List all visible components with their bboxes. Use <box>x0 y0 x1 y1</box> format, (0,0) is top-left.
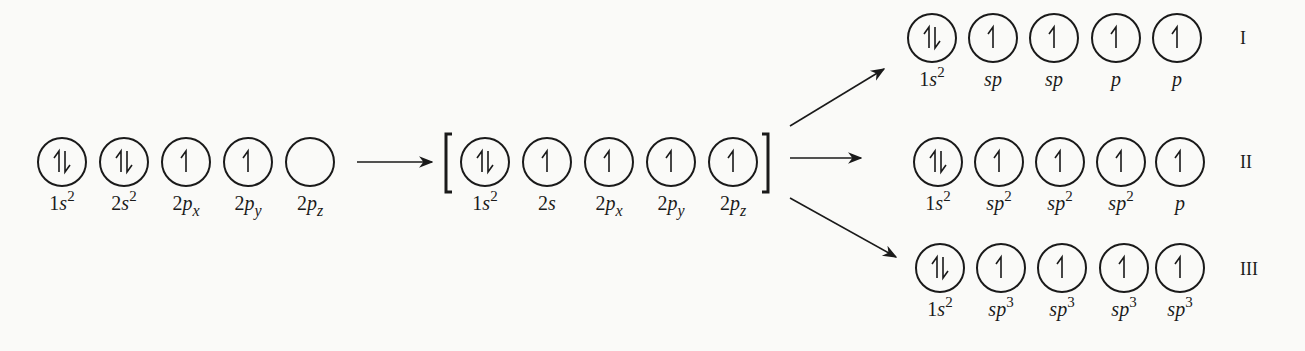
spin-down-icon <box>127 151 132 172</box>
orbital-label: 2px <box>172 192 199 219</box>
orbital-box <box>1092 14 1140 62</box>
orbital-label: sp2 <box>1047 188 1072 215</box>
orbital-box <box>1156 244 1204 292</box>
spin-up-icon <box>1055 151 1060 172</box>
orbital-box <box>916 244 964 292</box>
numeral-ii: II <box>1240 152 1252 172</box>
orbital-label: sp3 <box>1111 294 1136 321</box>
orbital-box <box>585 138 633 186</box>
arrow-to-hybrid-i <box>790 69 884 126</box>
spin-up-icon <box>1116 151 1121 172</box>
orbital-box <box>908 14 956 62</box>
orbital-label: p <box>1170 68 1182 91</box>
spin-up-icon <box>604 151 609 172</box>
arrow-to-hybrid-iii <box>790 198 896 257</box>
orbital-label: sp2 <box>1108 188 1133 215</box>
spin-down-icon <box>935 27 940 48</box>
orbital-box <box>1100 244 1148 292</box>
orbital-box <box>1030 14 1078 62</box>
orbital-box <box>1156 138 1204 186</box>
orbital-label: 1s2 <box>472 188 497 214</box>
spin-up-icon <box>116 151 121 172</box>
spin-up-icon <box>1057 257 1062 278</box>
orbital-label: 2py <box>657 192 685 220</box>
orbital-label: sp3 <box>1049 294 1074 321</box>
spin-up-icon <box>930 151 935 172</box>
orbital-label: sp <box>1045 68 1063 91</box>
spin-up-icon <box>1049 27 1054 48</box>
orbital-box <box>224 138 272 186</box>
spin-down-icon <box>941 151 946 172</box>
orbital-box <box>977 244 1025 292</box>
orbital-label: 1s2 <box>925 188 950 214</box>
spin-up-icon <box>1119 257 1124 278</box>
orbital-box <box>1038 244 1086 292</box>
numeral-iii: III <box>1240 259 1258 279</box>
orbital-label: 2s <box>538 192 556 214</box>
orbital-box <box>38 138 86 186</box>
spin-up-icon <box>666 151 671 172</box>
spin-up-icon <box>1175 257 1180 278</box>
orbital-box <box>914 138 962 186</box>
right-bracket <box>762 134 768 192</box>
spin-up-icon <box>728 151 733 172</box>
orbital-label: sp3 <box>988 294 1013 321</box>
orbital-label: 2pz <box>297 192 324 219</box>
hybrid-state-iii: 1s2sp3sp3sp3sp3 <box>916 244 1204 321</box>
orbital-box <box>1153 14 1201 62</box>
orbital-label: sp2 <box>986 188 1011 215</box>
orbital-label: 2px <box>595 192 622 219</box>
spin-down-icon <box>65 151 70 172</box>
hybrid-state-i: 1s2spsppp <box>908 14 1201 91</box>
spin-up-icon <box>1175 151 1180 172</box>
spin-up-icon <box>542 151 547 172</box>
excited-state-group: 1s22s2px2py2pz <box>461 138 757 220</box>
spin-up-icon <box>1111 27 1116 48</box>
orbital-box <box>100 138 148 186</box>
ground-state-group: 1s22s22px2py2pz <box>38 138 334 220</box>
spin-up-icon <box>477 151 482 172</box>
spin-up-icon <box>924 27 929 48</box>
orbital-box <box>1036 138 1084 186</box>
orbital-label: 2s2 <box>111 188 136 214</box>
orbital-box <box>286 138 334 186</box>
left-bracket <box>446 134 452 192</box>
orbital-box <box>523 138 571 186</box>
spin-up-icon <box>932 257 937 278</box>
spin-up-icon <box>181 151 186 172</box>
orbital-label: 1s2 <box>927 294 952 320</box>
orbital-label: 2pz <box>720 192 747 219</box>
spin-up-icon <box>243 151 248 172</box>
spin-up-icon <box>54 151 59 172</box>
spin-up-icon <box>994 151 999 172</box>
orbital-label: sp <box>984 68 1002 91</box>
orbital-label: sp3 <box>1167 294 1192 321</box>
spin-down-icon <box>943 257 948 278</box>
orbital-label: p <box>1173 192 1185 215</box>
orbital-box <box>975 138 1023 186</box>
orbital-label: 2py <box>234 192 262 220</box>
orbital-label: p <box>1109 68 1121 91</box>
orbital-label: 1s2 <box>919 64 944 90</box>
orbital-box <box>709 138 757 186</box>
orbital-box <box>1097 138 1145 186</box>
numeral-i: I <box>1240 28 1246 48</box>
spin-up-icon <box>996 257 1001 278</box>
orbital-box <box>461 138 509 186</box>
spin-up-icon <box>988 27 993 48</box>
orbital-label: 1s2 <box>49 188 74 214</box>
spin-up-icon <box>1172 27 1177 48</box>
orbital-diagram: 1s22s22px2py2pz 1s22s2px2py2pz 1s2spsppp… <box>0 0 1305 351</box>
orbital-box <box>162 138 210 186</box>
hybrid-state-ii: 1s2sp2sp2sp2p <box>914 138 1204 215</box>
spin-down-icon <box>488 151 493 172</box>
orbital-box <box>969 14 1017 62</box>
orbital-box <box>647 138 695 186</box>
